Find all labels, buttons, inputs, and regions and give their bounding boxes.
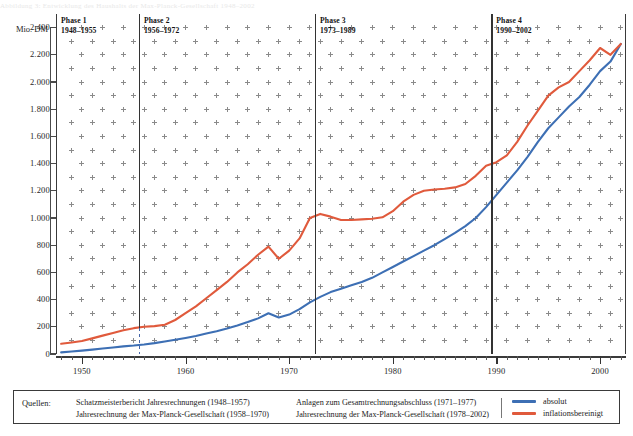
y-tick xyxy=(50,326,56,327)
x-tick-minor xyxy=(434,356,435,360)
sources-label: Quellen: xyxy=(22,399,51,408)
x-tick-minor xyxy=(61,356,62,360)
legend-item-inflationsbereinigt: inflationsbereinigt xyxy=(512,408,603,420)
source-line: Schatzmeisterbericht Jahresrechnungen (1… xyxy=(76,397,269,409)
x-tick-minor xyxy=(320,356,321,360)
chart-page: Abbildung 3: Entwicklung des Haushalts d… xyxy=(0,0,633,436)
y-tick-label: 400 xyxy=(6,294,50,304)
phase-label-phase-2: Phase 21956–1972 xyxy=(144,16,180,35)
source-line: Anlagen zum Gesamtrechnungsabschluss (19… xyxy=(296,397,489,409)
x-tick-minor xyxy=(424,356,425,360)
x-tick-minor xyxy=(403,356,404,360)
x-tick-minor xyxy=(300,356,301,360)
y-tick-label: 1.000 xyxy=(6,213,50,223)
legend-item-absolut: absolut xyxy=(512,396,603,408)
x-tick-minor xyxy=(351,356,352,360)
x-tick-minor xyxy=(196,356,197,360)
x-tick-minor xyxy=(227,356,228,360)
y-tick-label: 1.600 xyxy=(6,131,50,141)
x-tick-minor xyxy=(465,356,466,360)
x-tick-minor xyxy=(455,356,456,360)
x-tick-major xyxy=(393,356,394,364)
legend-swatch-inflationsbereinigt xyxy=(512,412,536,415)
y-tick-label: 600 xyxy=(6,267,50,277)
x-tick-minor xyxy=(548,356,549,360)
y-tick xyxy=(50,27,56,28)
y-tick-label: 2.200 xyxy=(6,49,50,59)
sources-column-1: Schatzmeisterbericht Jahresrechnungen (1… xyxy=(76,397,269,420)
x-tick-minor xyxy=(248,356,249,360)
x-tick-minor xyxy=(528,356,529,360)
x-tick-minor xyxy=(165,356,166,360)
phase-name: Phase 1 xyxy=(61,16,97,26)
phase-divider-phase-4 xyxy=(491,14,492,354)
legend: absolut inflationsbereinigt xyxy=(512,396,603,419)
plot-area xyxy=(56,14,626,354)
x-tick-minor xyxy=(103,356,104,360)
legend-divider xyxy=(501,398,502,418)
x-tick-minor xyxy=(206,356,207,360)
y-tick xyxy=(50,299,56,300)
x-tick-label: 2000 xyxy=(591,366,609,376)
x-tick-major xyxy=(289,356,290,364)
x-tick-minor xyxy=(414,356,415,360)
legend-swatch-absolut xyxy=(512,400,536,403)
figure-title: Abbildung 3: Entwicklung des Haushalts d… xyxy=(0,0,633,12)
phase-years: 1990–2002 xyxy=(496,26,532,36)
x-tick-minor xyxy=(144,356,145,360)
phase-label-phase-3: Phase 31973–1989 xyxy=(320,16,356,35)
y-tick xyxy=(50,136,56,137)
y-tick xyxy=(50,109,56,110)
x-tick-label: 1990 xyxy=(488,366,506,376)
x-tick-major xyxy=(186,356,187,364)
y-tick xyxy=(50,272,56,273)
phase-divider-phase-3 xyxy=(315,14,316,354)
x-tick-major xyxy=(600,356,601,364)
x-tick-minor xyxy=(310,356,311,360)
x-tick-minor xyxy=(113,356,114,360)
x-tick-minor xyxy=(507,356,508,360)
sources-column-2: Anlagen zum Gesamtrechnungsabschluss (19… xyxy=(296,397,489,420)
x-tick-major xyxy=(82,356,83,364)
y-tick-label: 1.400 xyxy=(6,158,50,168)
y-tick-label: 1.200 xyxy=(6,185,50,195)
y-tick-label: 1.800 xyxy=(6,104,50,114)
y-tick xyxy=(50,217,56,218)
x-tick-minor xyxy=(279,356,280,360)
x-tick-minor xyxy=(445,356,446,360)
y-tick xyxy=(50,54,56,55)
y-tick-label: 2.000 xyxy=(6,77,50,87)
phase-years: 1948–1955 xyxy=(61,26,97,36)
phase-label-phase-1: Phase 11948–1955 xyxy=(61,16,97,35)
x-tick-minor xyxy=(123,356,124,360)
x-tick-label: 1950 xyxy=(73,366,91,376)
x-tick-minor xyxy=(341,356,342,360)
phase-years: 1956–1972 xyxy=(144,26,180,36)
x-tick-minor xyxy=(268,356,269,360)
x-tick-minor xyxy=(538,356,539,360)
x-tick-minor xyxy=(517,356,518,360)
legend-label-inflationsbereinigt: inflationsbereinigt xyxy=(543,408,603,420)
phase-name: Phase 3 xyxy=(320,16,356,26)
source-line: Jahresrechnung der Max-Planck-Gesellscha… xyxy=(296,409,489,421)
series-line-absolut xyxy=(61,44,621,352)
source-line: Jahresrechnung der Max-Planck-Gesellscha… xyxy=(76,409,269,421)
data-lines xyxy=(56,14,626,354)
y-tick xyxy=(50,245,56,246)
x-tick-minor xyxy=(382,356,383,360)
x-tick-minor xyxy=(134,356,135,360)
y-tick-label: 2.400 xyxy=(6,22,50,32)
x-tick-label: 1970 xyxy=(280,366,298,376)
x-tick-minor xyxy=(331,356,332,360)
x-tick-minor xyxy=(92,356,93,360)
x-tick-minor xyxy=(621,356,622,360)
x-tick-major xyxy=(496,356,497,364)
series-line-inflationsbereinigt xyxy=(61,44,621,344)
y-tick xyxy=(50,81,56,82)
y-tick-label: 200 xyxy=(6,321,50,331)
x-tick-minor xyxy=(476,356,477,360)
x-tick-label: 1980 xyxy=(384,366,402,376)
y-tick-label: 800 xyxy=(6,240,50,250)
x-tick-minor xyxy=(237,356,238,360)
phase-label-phase-4: Phase 41990–2002 xyxy=(496,16,532,35)
